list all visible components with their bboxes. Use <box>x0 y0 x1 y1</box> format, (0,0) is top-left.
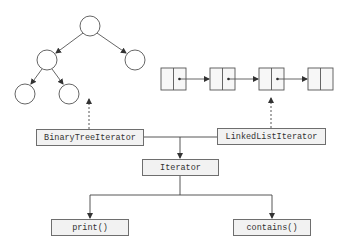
linked-list-iterator-box: LinkedListIterator <box>217 128 326 145</box>
linked-list <box>161 68 333 90</box>
print-box: print() <box>51 219 129 236</box>
tree-node-left-right <box>59 84 79 104</box>
connectors <box>90 137 272 218</box>
binary-tree <box>15 16 145 104</box>
binary-tree-iterator-box: BinaryTreeIterator <box>36 129 144 146</box>
tree-node-left-left <box>15 84 35 104</box>
list-node-4 <box>308 68 333 90</box>
iterator-diagram: BinaryTreeIterator LinkedListIterator It… <box>0 0 342 249</box>
tree-node-left <box>37 50 57 70</box>
iterator-box: Iterator <box>142 159 219 176</box>
dotted-arrows <box>89 98 271 129</box>
contains-box: contains() <box>233 219 311 236</box>
tree-node-root <box>80 16 100 36</box>
diagram-graphics <box>0 0 342 249</box>
tree-node-right <box>125 50 145 70</box>
